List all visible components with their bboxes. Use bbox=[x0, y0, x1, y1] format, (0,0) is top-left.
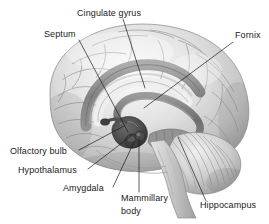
label-cingulate-gyrus: Cingulate gyrus bbox=[77, 8, 141, 18]
label-mammillary-body: Mammillary bbox=[121, 193, 168, 203]
label-hypothalamus: Hypothalamus bbox=[18, 165, 77, 175]
label-fornix: Fornix bbox=[235, 30, 261, 40]
mammillary-body-structure bbox=[135, 131, 145, 141]
label-hippocampus: Hippocampus bbox=[200, 200, 257, 210]
label-septum: Septum bbox=[44, 29, 76, 39]
label-mammillary-body-line2: body bbox=[121, 206, 141, 216]
brain-diagram-figure: Cingulate gyrus Septum Fornix Olfactory … bbox=[0, 0, 269, 224]
brain-illustration: Cingulate gyrus Septum Fornix Olfactory … bbox=[0, 0, 269, 224]
label-olfactory-bulb: Olfactory bulb bbox=[10, 146, 67, 156]
label-amygdala: Amygdala bbox=[63, 183, 104, 193]
